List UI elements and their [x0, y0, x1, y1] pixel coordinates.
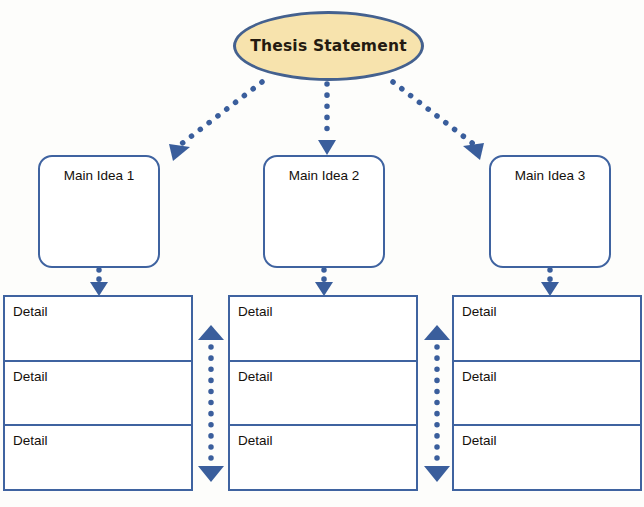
diagram-canvas: Thesis Statement Main Idea 1 Main Idea 2… — [0, 0, 644, 507]
connector-thesis-to-main-2 — [318, 84, 336, 155]
detail-table-1: Detail Detail Detail — [3, 295, 193, 491]
detail-cell[interactable]: Detail — [452, 424, 642, 491]
detail-cell[interactable]: Detail — [3, 295, 193, 362]
double-arrow-between-col2-col3 — [424, 325, 450, 482]
connector-main-2-to-details — [315, 270, 333, 296]
detail-cell[interactable]: Detail — [3, 424, 193, 491]
detail-cell[interactable]: Detail — [228, 295, 418, 362]
detail-label: Detail — [238, 304, 273, 319]
double-arrow-between-col1-col2 — [198, 325, 224, 482]
connector-main-3-to-details — [541, 270, 559, 296]
detail-label: Detail — [13, 304, 48, 319]
detail-label: Detail — [462, 433, 497, 448]
connector-thesis-to-main-3 — [393, 82, 484, 160]
detail-cell[interactable]: Detail — [452, 295, 642, 362]
detail-cell[interactable]: Detail — [3, 360, 193, 427]
main-idea-box-3[interactable]: Main Idea 3 — [489, 155, 611, 268]
detail-label: Detail — [462, 369, 497, 384]
connector-main-1-to-details — [90, 270, 108, 296]
detail-label: Detail — [13, 433, 48, 448]
connector-thesis-to-main-1 — [169, 82, 262, 161]
detail-label: Detail — [238, 433, 273, 448]
detail-cell[interactable]: Detail — [452, 360, 642, 427]
thesis-statement-node[interactable]: Thesis Statement — [233, 11, 424, 81]
detail-cell[interactable]: Detail — [228, 360, 418, 427]
detail-cell[interactable]: Detail — [228, 424, 418, 491]
detail-table-3: Detail Detail Detail — [452, 295, 642, 491]
detail-label: Detail — [13, 369, 48, 384]
main-idea-box-2[interactable]: Main Idea 2 — [263, 155, 385, 268]
detail-label: Detail — [238, 369, 273, 384]
main-idea-label-1: Main Idea 1 — [40, 168, 158, 183]
thesis-statement-label: Thesis Statement — [250, 37, 407, 55]
main-idea-label-2: Main Idea 2 — [265, 168, 383, 183]
detail-table-2: Detail Detail Detail — [228, 295, 418, 491]
main-idea-box-1[interactable]: Main Idea 1 — [38, 155, 160, 268]
main-idea-label-3: Main Idea 3 — [491, 168, 609, 183]
detail-label: Detail — [462, 304, 497, 319]
